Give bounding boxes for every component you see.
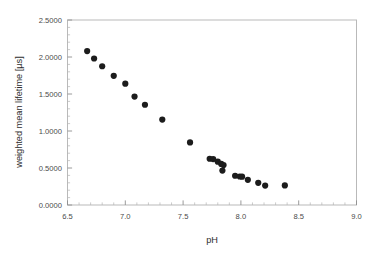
chart-figure: 6.57.07.58.08.59.0 0.00000.50001.00001.5… bbox=[0, 0, 372, 253]
data-point bbox=[131, 93, 137, 99]
data-point bbox=[245, 177, 251, 183]
y-tick-label: 2.5000 bbox=[39, 16, 62, 25]
data-point bbox=[159, 116, 165, 122]
x-tick-label: 7.0 bbox=[120, 212, 131, 221]
data-point bbox=[282, 182, 288, 188]
data-point bbox=[255, 180, 261, 186]
x-tick-label: 9.0 bbox=[351, 212, 362, 221]
scatter-plot: 6.57.07.58.08.59.0 0.00000.50001.00001.5… bbox=[0, 0, 372, 253]
data-point bbox=[99, 63, 105, 69]
data-point bbox=[187, 139, 193, 145]
y-axis-title: weighted mean lifetime [µs] bbox=[14, 56, 24, 169]
x-axis-title: pH bbox=[206, 235, 218, 245]
data-point bbox=[111, 73, 117, 79]
x-tick-label: 6.5 bbox=[62, 212, 73, 221]
y-tick-label: 1.5000 bbox=[39, 90, 62, 99]
y-tick-label: 2.0000 bbox=[39, 53, 62, 62]
data-point bbox=[122, 81, 128, 87]
data-point bbox=[142, 102, 148, 108]
data-point bbox=[239, 174, 245, 180]
y-tick-label: 0.0000 bbox=[39, 201, 62, 210]
x-tick-label: 7.5 bbox=[178, 212, 189, 221]
data-point bbox=[91, 55, 97, 61]
data-point bbox=[84, 48, 90, 54]
x-tick-label: 8.0 bbox=[236, 212, 247, 221]
y-tick-label: 0.5000 bbox=[39, 164, 62, 173]
data-point bbox=[220, 162, 226, 168]
y-tick-label: 1.0000 bbox=[39, 127, 62, 136]
x-tick-label: 8.5 bbox=[293, 212, 304, 221]
data-point bbox=[262, 183, 268, 189]
data-point bbox=[219, 167, 225, 173]
